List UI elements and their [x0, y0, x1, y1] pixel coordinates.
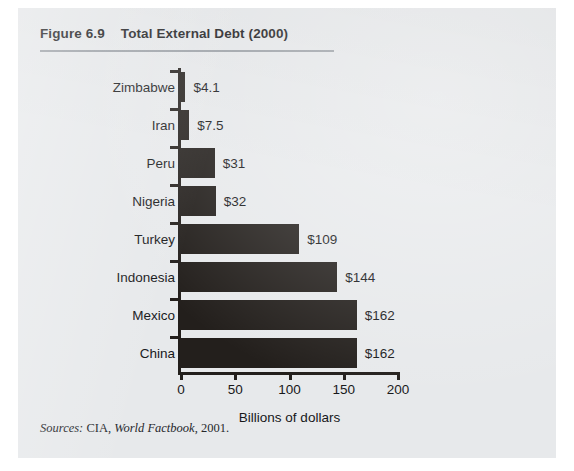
bar-chart: Zimbabwe$4.1Iran$7.5Peru$31Nigeria$32Tur…: [18, 68, 556, 388]
y-axis-tick: [170, 70, 179, 73]
bar-value-label: $4.1: [193, 80, 219, 95]
scanned-page-area: Figure 6.9Total External Debt (2000) Zim…: [18, 8, 556, 458]
bar-category-label: Zimbabwe: [113, 80, 175, 95]
bar-value-label: $31: [223, 156, 246, 171]
x-axis-tick-label: 150: [332, 382, 355, 397]
y-axis-tick: [170, 336, 179, 339]
y-axis-tick: [170, 146, 179, 149]
y-axis-tick: [170, 260, 179, 263]
bar-value-label: $162: [365, 346, 395, 361]
x-axis-tick-label: 200: [387, 382, 410, 397]
x-axis-tick: [234, 372, 237, 380]
y-axis-tick: [170, 222, 179, 225]
bar-row: Peru$31: [18, 144, 556, 182]
figure-page: Figure 6.9Total External Debt (2000) Zim…: [0, 0, 574, 471]
source-organization: CIA,: [83, 421, 114, 435]
bar: [181, 224, 299, 254]
bar-row: Zimbabwe$4.1: [18, 68, 556, 106]
bar-row: Indonesia$144: [18, 258, 556, 296]
bar-value-label: $162: [365, 308, 395, 323]
bar: [181, 72, 185, 102]
bar-value-label: $32: [224, 194, 247, 209]
bar-category-label: Mexico: [132, 308, 175, 323]
x-axis-tick: [343, 372, 346, 380]
bar: [181, 262, 337, 292]
source-publication: World Factbook: [114, 421, 194, 435]
source-prefix: Sources:: [40, 421, 83, 435]
y-axis-tick: [170, 184, 179, 187]
figure-title-text: Total External Debt (2000): [121, 26, 288, 41]
x-axis-tick: [289, 372, 292, 380]
bar-category-label: Indonesia: [116, 270, 175, 285]
bar-row: Turkey$109: [18, 220, 556, 258]
bar-row: Nigeria$32: [18, 182, 556, 220]
source-year: , 2001.: [195, 421, 229, 435]
y-axis-line: [178, 68, 181, 372]
bar-category-label: Iran: [152, 118, 175, 133]
bar: [181, 300, 357, 330]
source-note: Sources: CIA, World Factbook, 2001.: [40, 421, 229, 436]
bar-row: Iran$7.5: [18, 106, 556, 144]
bar-value-label: $144: [345, 270, 375, 285]
x-axis-tick: [180, 372, 183, 380]
x-axis-tick-label: 50: [228, 382, 243, 397]
bar-row: China$162: [18, 334, 556, 372]
figure-title: Figure 6.9Total External Debt (2000): [40, 26, 288, 41]
bar: [181, 338, 357, 368]
bar: [181, 186, 216, 216]
bar-value-label: $109: [307, 232, 337, 247]
y-axis-tick: [170, 298, 179, 301]
bar-category-label: Nigeria: [132, 194, 175, 209]
bar-value-label: $7.5: [197, 118, 223, 133]
bar: [181, 148, 215, 178]
bar-category-label: China: [140, 346, 175, 361]
x-axis-tick-label: 100: [278, 382, 301, 397]
bar-category-label: Turkey: [134, 232, 175, 247]
title-divider: [40, 50, 334, 52]
y-axis-tick: [170, 108, 179, 111]
x-axis-tick: [397, 372, 400, 380]
x-axis-tick-label: 0: [177, 382, 185, 397]
bar-category-label: Peru: [146, 156, 175, 171]
figure-number: Figure 6.9: [40, 26, 105, 41]
bar-row: Mexico$162: [18, 296, 556, 334]
bar: [181, 110, 189, 140]
